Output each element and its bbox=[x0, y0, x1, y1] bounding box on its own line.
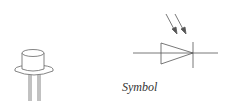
diode-triangle bbox=[161, 43, 193, 64]
can-top bbox=[22, 50, 44, 57]
symbol-caption: Symbol bbox=[122, 80, 157, 95]
light-arrows-icon bbox=[166, 14, 186, 34]
photodiode-package-illustration bbox=[15, 50, 53, 102]
photodiode-symbol bbox=[133, 14, 218, 68]
